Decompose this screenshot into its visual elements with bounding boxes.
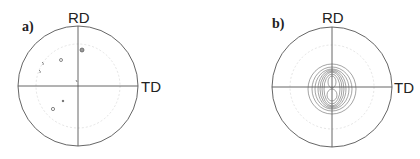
panel-label-a: a) — [22, 19, 34, 35]
poles — [39, 48, 84, 111]
rd-label-a: RD — [68, 9, 90, 26]
pole-figures: a) RD TD b) RD TD — [0, 0, 420, 159]
td-label-a: TD — [141, 78, 161, 95]
rd-label-b: RD — [322, 9, 344, 26]
td-label-b: TD — [394, 79, 414, 96]
panel-label-b: b) — [272, 16, 285, 32]
pole-figure-a: a) RD TD — [18, 9, 161, 146]
pole-figure-b: b) RD TD — [272, 9, 414, 147]
